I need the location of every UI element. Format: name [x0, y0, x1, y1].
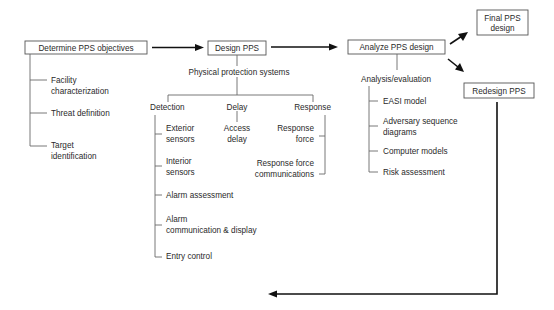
arrow-design-to-analyze — [271, 44, 338, 51]
detection-interior-line2: sensors — [166, 168, 195, 177]
detection-tree-lines — [155, 115, 162, 257]
final-pps-label-line2: design — [490, 24, 515, 33]
final-pps-label-line1: Final PPS — [484, 14, 521, 23]
arrow-determine-to-design — [152, 44, 204, 51]
detection-alarm-assessment: Alarm assessment — [166, 191, 234, 200]
analysis-evaluation-label: Analysis/evaluation — [361, 75, 432, 84]
detection-label: Detection — [150, 103, 185, 112]
detection-alarm-comm-line2: communication & display — [166, 226, 257, 235]
redesign-pps-label: Redesign PPS — [472, 87, 526, 96]
detection-entry-control: Entry control — [166, 252, 212, 261]
analysis-asd-line1: Adversary sequence — [383, 117, 458, 126]
detection-exterior-line2: sensors — [166, 135, 195, 144]
objectives-tree — [30, 54, 47, 146]
arrow-analyze-to-redesign — [448, 59, 464, 72]
determine-objectives-node: Determine PPS objectives — [25, 41, 147, 54]
final-pps-design-node: Final PPS design — [477, 10, 528, 35]
detection-exterior-line1: Exterior — [166, 124, 194, 133]
detection-alarm-comm-line1: Alarm — [166, 215, 188, 224]
pps-design-process-diagram: Determine PPS objectives Design PPS Anal… — [0, 0, 554, 310]
response-force-line1: Response — [277, 124, 314, 133]
delay-access-line1: Access — [224, 124, 250, 133]
objective-facility-line2: characterization — [51, 87, 109, 96]
response-force-line2: force — [296, 135, 315, 144]
objective-target-line2: identification — [51, 152, 97, 161]
arrow-analyze-to-final — [450, 32, 468, 44]
analysis-risk-assessment: Risk assessment — [383, 168, 446, 177]
response-label: Response — [294, 103, 331, 112]
response-comm-line2: communications — [255, 170, 314, 179]
physical-protection-systems-label: Physical protection systems — [188, 68, 289, 77]
determine-objectives-label: Determine PPS objectives — [38, 44, 133, 53]
design-pps-node: Design PPS — [208, 41, 266, 55]
objective-facility-line1: Facility — [51, 76, 77, 85]
redesign-pps-node: Redesign PPS — [464, 83, 534, 98]
delay-label: Delay — [227, 103, 249, 112]
response-tree-lines — [319, 115, 325, 174]
analyze-pps-node: Analyze PPS design — [348, 40, 445, 54]
objective-target-line1: Target — [51, 141, 74, 150]
delay-access-line2: delay — [227, 135, 247, 144]
analysis-asd-line2: diagrams — [383, 128, 417, 137]
analysis-computer-models: Computer models — [383, 147, 448, 156]
analysis-easi-model: EASI model — [383, 97, 426, 106]
response-comm-line1: Response force — [257, 159, 315, 168]
design-pps-label: Design PPS — [215, 44, 260, 53]
objective-threat: Threat definition — [51, 109, 110, 118]
detection-interior-line1: Interior — [166, 157, 192, 166]
analyze-pps-label: Analyze PPS design — [359, 43, 434, 52]
